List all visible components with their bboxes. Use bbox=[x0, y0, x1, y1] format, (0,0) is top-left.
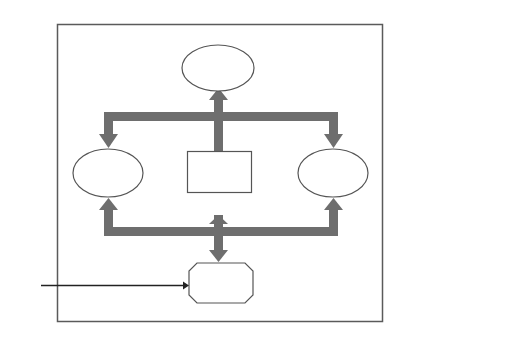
memory-node bbox=[188, 152, 252, 193]
input-connector bbox=[41, 282, 189, 290]
supervisory-processor-node bbox=[182, 45, 254, 91]
processor-left-node bbox=[73, 149, 143, 197]
input-arrowhead-icon bbox=[183, 282, 189, 290]
processor-right-node bbox=[298, 149, 368, 197]
lower-bus bbox=[99, 198, 343, 262]
system-diagram bbox=[0, 0, 530, 338]
io-node bbox=[189, 263, 253, 303]
